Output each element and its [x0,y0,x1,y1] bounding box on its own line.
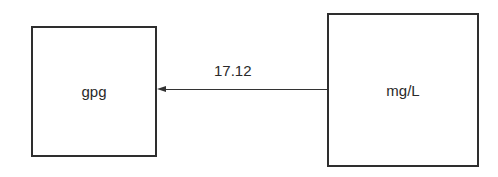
node-gpg-label: gpg [81,83,106,100]
edge-mgl-to-gpg-line [160,89,328,90]
arrowhead-icon [157,86,166,92]
node-gpg: gpg [31,26,157,157]
edge-conversion-factor-label: 17.12 [214,62,252,79]
node-mgl: mg/L [327,13,479,167]
node-mgl-label: mg/L [386,82,419,99]
